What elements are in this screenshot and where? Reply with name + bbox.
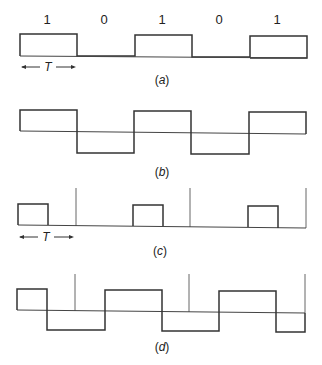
- arrow-left-icon: [21, 65, 26, 69]
- bit-label-2: 0: [100, 12, 107, 27]
- period-label: T: [42, 230, 51, 244]
- waveform-a: [20, 34, 307, 58]
- zero-line-b: [20, 131, 306, 134]
- bit-label-5: 1: [273, 12, 280, 27]
- panel-a: 1 0 1 0 1 T (a): [20, 12, 307, 87]
- line-coding-diagram: 1 0 1 0 1 T (a) (b) T: [0, 0, 322, 365]
- bit-label-4: 0: [215, 12, 222, 27]
- period-arrow-a: T: [21, 60, 76, 74]
- arrow-right-icon: [71, 65, 76, 69]
- bit-label-3: 1: [158, 12, 165, 27]
- arrow-left-icon: [19, 235, 24, 239]
- waveform-c: [18, 204, 278, 228]
- caption-b: (b): [155, 165, 170, 179]
- zero-line-d: [17, 310, 305, 313]
- arrow-right-icon: [69, 235, 74, 239]
- caption-c: (c): [153, 244, 167, 258]
- panel-b: (b): [20, 110, 306, 179]
- caption-a: (a): [155, 73, 170, 87]
- panel-d: (d): [17, 274, 305, 354]
- caption-d: (d): [155, 340, 170, 354]
- period-arrow-c: T: [19, 230, 74, 244]
- panel-c: T (c): [18, 188, 306, 258]
- period-label: T: [44, 60, 53, 74]
- bit-label-1: 1: [43, 12, 50, 27]
- baseline-c: [18, 225, 306, 228]
- baseline-a: [20, 56, 307, 58]
